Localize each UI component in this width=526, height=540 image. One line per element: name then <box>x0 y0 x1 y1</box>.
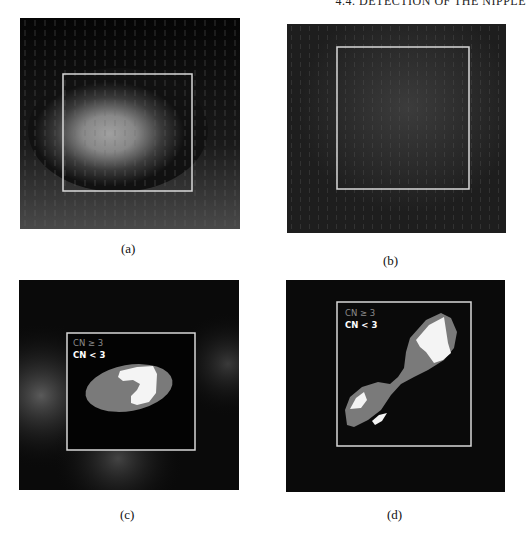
legend-cn-lt-3: CN < 3 <box>73 349 105 361</box>
running-header: 4.4. DETECTION OF THE NIPPLE <box>300 0 526 9</box>
caption-d: (d) <box>387 507 402 523</box>
legend-c: CN ≥ 3 CN < 3 <box>73 337 105 361</box>
panel-d-image <box>286 280 505 492</box>
panel-b-image <box>287 24 506 233</box>
legend-d: CN ≥ 3 CN < 3 <box>345 307 377 331</box>
legend-cn-lt-3: CN < 3 <box>345 319 377 331</box>
caption-c: (c) <box>120 507 134 523</box>
caption-a: (a) <box>121 241 135 257</box>
caption-b: (b) <box>383 253 398 269</box>
legend-cn-ge-3: CN ≥ 3 <box>73 337 105 349</box>
legend-cn-ge-3: CN ≥ 3 <box>345 307 377 319</box>
panel-c-image <box>19 280 239 490</box>
panel-a-image <box>20 18 240 229</box>
